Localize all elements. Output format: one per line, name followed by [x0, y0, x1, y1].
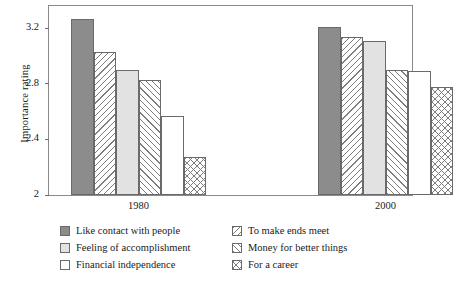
legend-column-left: Like contact with peopleFeeling of accom…	[60, 222, 240, 273]
legend-column-right: To make ends meetMoney for better things…	[232, 222, 422, 273]
bar	[139, 80, 162, 195]
plot-inner: 22.42.83.2	[49, 6, 412, 195]
bar	[386, 70, 409, 195]
y-axis-tick-label: 2	[34, 188, 39, 199]
bar	[431, 87, 454, 195]
x-axis-tick-label: 2000	[298, 200, 457, 211]
bar	[116, 70, 139, 195]
bar	[318, 27, 341, 195]
white-swatch	[60, 260, 70, 270]
light-gray-swatch	[60, 243, 70, 253]
bar	[363, 41, 386, 195]
y-axis-tick-label: 2.8	[26, 77, 39, 88]
y-axis-tick-mark	[45, 28, 49, 29]
legend-item-label: For a career	[248, 259, 298, 271]
bar	[184, 157, 207, 195]
legend-item-label: Financial independence	[76, 259, 175, 271]
crosshatch-swatch	[232, 260, 242, 270]
y-axis-title: Importance rating	[19, 24, 30, 184]
legend-item-label: To make ends meet	[248, 225, 329, 237]
bar	[161, 116, 184, 195]
y-axis-tick-label: 3.2	[26, 21, 39, 32]
y-axis-tick-mark	[45, 139, 49, 140]
legend-item: Money for better things	[232, 239, 422, 256]
legend-item: For a career	[232, 256, 422, 273]
y-axis-tick-label: 2.4	[26, 132, 39, 143]
solid-gray-swatch	[60, 226, 70, 236]
legend-item-label: Feeling of accomplishment	[76, 242, 190, 254]
legend-item: Like contact with people	[60, 222, 240, 239]
forwardslash-hatch-swatch	[232, 243, 242, 253]
y-axis-tick-mark	[45, 195, 49, 196]
bar	[341, 37, 364, 195]
bar	[94, 52, 117, 195]
legend-item-label: Like contact with people	[76, 225, 180, 237]
backslash-hatch-swatch	[232, 226, 242, 236]
legend-item: Feeling of accomplishment	[60, 239, 240, 256]
bar	[71, 19, 94, 195]
legend-item: Financial independence	[60, 256, 240, 273]
y-axis-tick-mark	[45, 83, 49, 84]
legend-item: To make ends meet	[232, 222, 422, 239]
x-axis-tick-label: 1980	[51, 200, 226, 211]
plot-area: 22.42.83.2	[48, 5, 413, 196]
bar	[408, 71, 431, 195]
legend-item-label: Money for better things	[248, 242, 347, 254]
